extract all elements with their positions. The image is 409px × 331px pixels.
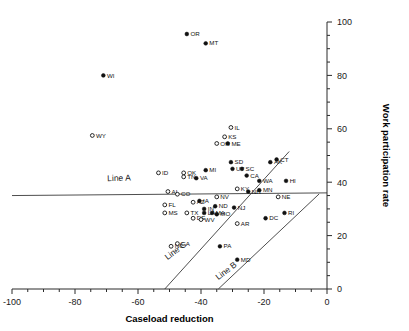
data-point-MI: MI	[204, 166, 217, 173]
point-label-ID: ID	[162, 169, 169, 176]
point-label-ME: ME	[231, 140, 240, 147]
data-point-MD: MD	[235, 256, 251, 263]
x-axis-tick-label: 0	[324, 297, 329, 307]
marker-open	[199, 218, 203, 222]
marker-open	[175, 192, 179, 196]
x-axis-tick-label: -60	[131, 297, 144, 307]
annotation-label-line-a: Line A	[107, 172, 131, 183]
point-label-AR: AR	[241, 220, 250, 227]
marker-open	[215, 142, 219, 146]
y-axis-tick-label: 40	[337, 178, 347, 188]
marker-filled	[202, 207, 206, 211]
point-label-WI: WI	[107, 72, 115, 79]
point-label-MO: MO	[220, 210, 230, 217]
data-point-CT: CT	[275, 156, 289, 163]
point-label-WA: WA	[263, 177, 274, 184]
point-label-CA: CA	[250, 172, 259, 179]
point-label-MT: MT	[209, 39, 218, 46]
data-points-group: ORMTWIWYILKSOHMESDAKCTUTSCMIIDOKTNVACAWA…	[90, 30, 296, 263]
point-label-CO: CO	[181, 190, 190, 197]
point-label-MI: MI	[209, 166, 216, 173]
data-point-AZ: AZ	[191, 198, 205, 205]
point-label-NJ: NJ	[238, 204, 246, 211]
point-label-FL: FL	[168, 201, 176, 208]
point-label-MN: MN	[263, 186, 273, 193]
marker-filled	[204, 168, 208, 172]
y-axis-tick-label: 20	[337, 231, 347, 241]
y-axis-tick-label: 100	[337, 17, 352, 27]
marker-filled	[226, 142, 230, 146]
point-label-NV: NV	[220, 193, 229, 200]
marker-open	[185, 211, 189, 215]
marker-filled	[257, 188, 261, 192]
marker-filled	[284, 179, 288, 183]
data-point-DC: DC	[264, 214, 279, 221]
y-axis-tick-label: 60	[337, 124, 347, 134]
point-label-DC: DC	[269, 214, 278, 221]
marker-filled	[210, 211, 214, 215]
point-label-MS: MS	[168, 209, 177, 216]
marker-open	[163, 203, 167, 207]
marker-filled	[268, 160, 272, 164]
marker-open	[90, 134, 94, 138]
point-label-HI: HI	[290, 177, 296, 184]
data-point-OR: OR	[185, 30, 200, 37]
x-axis-tick-label: -20	[257, 297, 270, 307]
data-point-FL: FL	[163, 201, 176, 208]
data-point-WA: WA	[257, 177, 273, 184]
marker-filled	[246, 190, 250, 194]
marker-filled	[240, 167, 244, 171]
marker-open	[166, 190, 170, 194]
data-point-HI: HI	[284, 177, 296, 184]
marker-open	[191, 216, 195, 220]
marker-open	[182, 171, 186, 175]
y-axis-tick-label: 0	[337, 284, 342, 294]
marker-open	[276, 195, 280, 199]
point-label-CT: CT	[280, 156, 288, 163]
point-label-IL: IL	[235, 124, 241, 131]
data-point-WI: WI	[101, 72, 114, 79]
chart-canvas: -100-80-60-40-200020406080100 ORMTWIWYIL…	[0, 0, 409, 331]
point-label-WV: WV	[205, 216, 216, 223]
marker-open	[191, 200, 195, 204]
data-point-PA: PA	[218, 242, 232, 249]
annotation-label-line-b: Line B	[213, 259, 239, 282]
y-axis-tick-label: 80	[337, 71, 347, 81]
x-axis-tick-label: -100	[3, 297, 21, 307]
point-label-PA: PA	[224, 242, 233, 249]
marker-filled	[101, 74, 105, 78]
marker-filled	[204, 41, 208, 45]
data-point-IL: IL	[229, 124, 240, 131]
marker-filled	[264, 216, 268, 220]
data-point-AR: AR	[235, 220, 250, 227]
marker-open	[235, 187, 239, 191]
marker-filled	[257, 179, 261, 183]
marker-filled	[235, 258, 239, 262]
marker-open	[163, 211, 167, 215]
marker-open	[182, 175, 186, 179]
x-axis-tick-label: -40	[194, 297, 207, 307]
marker-filled	[185, 32, 189, 36]
marker-filled	[218, 244, 222, 248]
data-point-NJ: NJ	[232, 204, 245, 211]
marker-filled	[275, 158, 279, 162]
marker-filled	[215, 212, 219, 216]
scatter-chart-figure: -100-80-60-40-200020406080100 ORMTWIWYIL…	[0, 0, 409, 331]
x-axis-tick-label: -80	[68, 297, 81, 307]
marker-open	[215, 195, 219, 199]
marker-filled	[283, 211, 287, 215]
data-point-CA: CA	[245, 172, 260, 179]
reference-lines-group	[12, 151, 327, 289]
marker-open	[229, 126, 233, 130]
point-label-AZ: AZ	[197, 198, 205, 205]
marker-open	[157, 171, 161, 175]
data-point-WY: WY	[90, 132, 105, 139]
point-label-WY: WY	[96, 132, 106, 139]
data-point-MT: MT	[204, 39, 219, 46]
x-axis-title: Caseload reduction	[125, 313, 213, 324]
data-point-NE: NE	[276, 193, 290, 200]
marker-filled	[245, 174, 249, 178]
point-label-MD: MD	[241, 256, 251, 263]
point-label-OR: OR	[190, 30, 200, 37]
data-point-VA: VA	[194, 174, 208, 181]
